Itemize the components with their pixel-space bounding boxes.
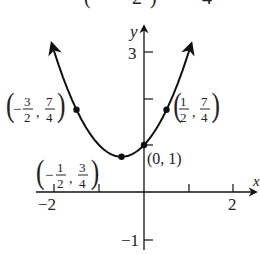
x-axis-label: x bbox=[252, 173, 260, 189]
point-vertex bbox=[118, 154, 124, 160]
svg-text:): ) bbox=[91, 152, 99, 190]
svg-text:−: − bbox=[13, 101, 21, 117]
svg-text:4: 4 bbox=[202, 0, 212, 8]
parabola-chart: ( 2 ) 4 y x −2 2 3 −1 ( − 3 2 bbox=[0, 0, 260, 255]
tick-label-neg2: −2 bbox=[38, 195, 56, 214]
svg-text:7: 7 bbox=[46, 94, 53, 109]
svg-text:4: 4 bbox=[46, 110, 53, 125]
label-point-0-1: (0, 1) bbox=[147, 150, 182, 168]
svg-text:3: 3 bbox=[24, 94, 31, 109]
y-axis-label: y bbox=[128, 22, 138, 41]
label-point-vertex: ( − 1 2 , 3 4 ) bbox=[36, 152, 99, 191]
label-point-half-7quarter: ( 1 2 , 7 4 ) bbox=[173, 85, 220, 125]
label-point-neg3half-7quarter: ( − 3 2 , 7 4 ) bbox=[6, 85, 65, 125]
svg-text:): ) bbox=[57, 85, 65, 123]
svg-text:(: ( bbox=[36, 152, 44, 190]
svg-text:): ) bbox=[150, 0, 157, 9]
svg-text:1: 1 bbox=[180, 94, 187, 109]
svg-text:2: 2 bbox=[132, 0, 142, 8]
tick-label-neg1: −1 bbox=[121, 231, 139, 250]
point-0-1 bbox=[141, 142, 147, 148]
svg-text:): ) bbox=[212, 85, 220, 123]
svg-text:3: 3 bbox=[79, 160, 86, 175]
svg-text:2: 2 bbox=[180, 110, 187, 125]
svg-text:(: ( bbox=[84, 0, 91, 9]
tick-label-3: 3 bbox=[128, 44, 137, 63]
svg-text:−: − bbox=[45, 167, 53, 183]
parabola-curve bbox=[52, 44, 192, 157]
svg-text:,: , bbox=[69, 171, 73, 186]
partial-formula: ( 2 ) 4 bbox=[84, 0, 212, 9]
svg-text:2: 2 bbox=[57, 176, 64, 191]
svg-text:,: , bbox=[36, 105, 40, 120]
point-neg3half-7quarter bbox=[73, 107, 79, 113]
point-half-7quarter bbox=[163, 107, 169, 113]
svg-text:1: 1 bbox=[57, 160, 64, 175]
svg-text:2: 2 bbox=[24, 110, 31, 125]
svg-text:4: 4 bbox=[79, 176, 86, 191]
svg-text:,: , bbox=[192, 105, 196, 120]
svg-text:7: 7 bbox=[201, 94, 208, 109]
svg-text:4: 4 bbox=[201, 110, 208, 125]
axes bbox=[36, 26, 256, 250]
tick-label-2: 2 bbox=[228, 195, 237, 214]
